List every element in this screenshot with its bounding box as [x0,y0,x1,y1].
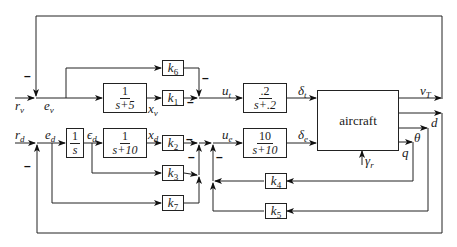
tf-t-num: .2 [259,85,272,99]
integrator-num: 1 [70,130,80,144]
label-r-d: rd [15,128,25,144]
label-u-e: ue [222,128,233,144]
tf-d-num: 1 [120,130,130,144]
minus-sign-k1: – [187,96,194,108]
k7-index: 7 [174,202,179,212]
k6-index: 6 [174,67,179,77]
label-eps-d: ϵd [87,128,97,144]
gain-block-k7: k7 [162,195,184,211]
transfer-block-velocity: 1s+5 [103,83,147,113]
label-x-d: xd [148,128,158,144]
label-theta: θ [414,131,420,144]
label-delta-e: δe [298,128,308,144]
label-d: d [431,116,438,129]
label-gamma-r: γr [365,154,374,170]
minus-sign-ed-feedback: – [24,160,31,172]
tf-e-den: s+10 [251,144,280,157]
label-v-T: vT [420,84,431,100]
minus-sign-k2: – [186,133,193,145]
gain-block-k1: k1 [162,90,184,106]
transfer-block-elevator: 10s+10 [243,128,287,158]
transfer-block-throttle: .2s+.2 [243,83,287,113]
transfer-block-path: 1s+10 [103,128,147,158]
label-u-t: ut [222,84,231,100]
minus-sign-ue: – [216,151,223,163]
label-delta-t: δt [298,84,307,100]
label-q: q [402,146,409,159]
k5-index: 5 [277,210,282,220]
block-diagram: 1s+5 k6 k1 .2s+.2 aircraft 1s 1s+10 k2 k… [0,0,457,247]
minus-sign-k3: – [188,151,195,163]
gain-block-k5: k5 [265,203,287,219]
label-e-v: ev [44,99,54,115]
minus-sign-k6: – [202,72,209,84]
gain-block-k4: k4 [265,173,287,189]
label-r-v: rv [15,99,24,115]
k4-index: 4 [277,180,282,190]
integrator-block: 1s [66,128,84,158]
label-e-d: ed [45,128,55,144]
gain-block-k2: k2 [162,135,184,151]
tf-v-num: 1 [120,85,130,99]
integrator-den: s [71,144,80,157]
tf-d-den: s+10 [111,144,140,157]
aircraft-block: aircraft [317,90,399,151]
tf-t-den: s+.2 [252,99,278,112]
k3-index: 3 [174,172,179,182]
gain-block-k3: k3 [162,165,184,181]
label-x-v: xv [148,102,158,118]
tf-e-num: 10 [257,130,273,144]
k2-index: 2 [174,142,179,152]
aircraft-label: aircraft [339,113,377,129]
k1-index: 1 [174,97,179,107]
tf-v-den: s+5 [114,99,137,112]
minus-sign-ev-feedback: – [24,70,31,82]
gain-block-k6: k6 [162,60,184,76]
